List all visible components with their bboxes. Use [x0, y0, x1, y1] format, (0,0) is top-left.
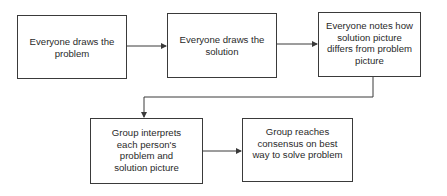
node-group-interprets: Group interprets each person's problem a…: [90, 118, 203, 184]
node-label: Everyone draws the solution: [174, 34, 270, 77]
node-label: Everyone draws the problem: [24, 36, 120, 78]
node-label: Group interprets each person's problem a…: [105, 127, 189, 183]
node-draw-problem: Everyone draws the problem: [17, 15, 127, 79]
arrow-n3-n4: [144, 76, 373, 117]
node-note-differences: Everyone notes how solution picture diff…: [318, 12, 421, 77]
node-draw-solution: Everyone draws the solution: [167, 13, 277, 78]
node-group-consensus: Group reaches consensus on best way to s…: [242, 118, 353, 182]
node-label: Group reaches consensus on best way to s…: [250, 126, 346, 181]
node-label: Everyone notes how solution picture diff…: [324, 20, 416, 76]
